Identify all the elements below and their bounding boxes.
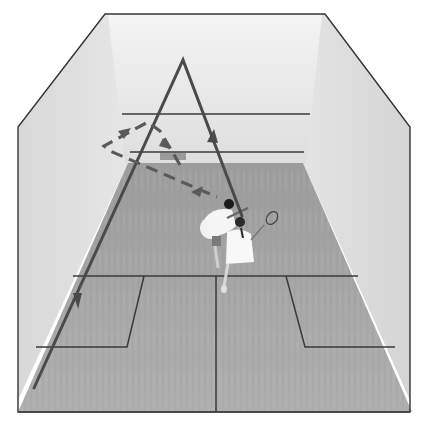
tin-board xyxy=(160,153,186,160)
squash-court-illustration xyxy=(0,0,426,433)
